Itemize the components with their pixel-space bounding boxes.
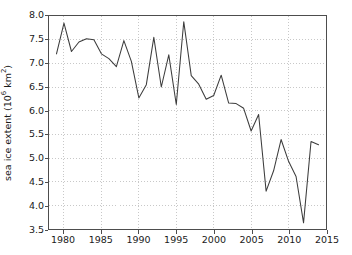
x-tick-mark <box>214 230 215 234</box>
y-tick-mark <box>45 230 49 231</box>
x-tick-mark <box>289 230 290 234</box>
x-tick-label: 1990 <box>108 235 168 245</box>
x-tick-mark <box>63 230 64 234</box>
plot-area <box>48 15 327 230</box>
x-tick-label: 1995 <box>146 235 206 245</box>
x-tick-mark <box>327 230 328 234</box>
y-tick-label: 8.0 <box>0 10 44 20</box>
x-tick-label: 2005 <box>222 235 282 245</box>
y-axis-label: sea ice extent (106 km2) <box>2 64 13 180</box>
x-tick-label: 2015 <box>297 235 352 245</box>
data-series-line <box>49 16 326 229</box>
x-tick-label: 2000 <box>184 235 244 245</box>
y-tick-label: 4.0 <box>0 201 44 211</box>
y-tick-label: 7.5 <box>0 34 44 44</box>
x-tick-label: 1985 <box>71 235 131 245</box>
x-tick-label: 1980 <box>33 235 93 245</box>
y-tick-label: 3.5 <box>0 225 44 235</box>
x-tick-label: 2010 <box>259 235 319 245</box>
chart-figure: 3.54.04.55.05.56.06.57.07.58.0 198019851… <box>0 0 352 255</box>
sea-ice-extent-line <box>56 22 318 223</box>
x-tick-mark <box>252 230 253 234</box>
x-tick-mark <box>176 230 177 234</box>
x-tick-mark <box>138 230 139 234</box>
x-tick-mark <box>101 230 102 234</box>
